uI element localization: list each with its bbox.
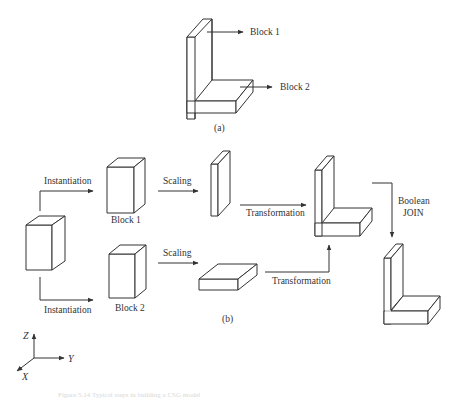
scaling-bottom-arrow: Scaling: [158, 248, 198, 263]
scaled-slab: [211, 151, 230, 216]
scaled-base: [199, 264, 257, 290]
figure-caption: Figure 5.14 Typical steps in building a …: [58, 391, 200, 399]
instantiation-bottom-arrow: Instantiation: [40, 277, 93, 315]
final-l-shape: [384, 244, 440, 324]
transformation-bottom-label: Transformation: [272, 276, 331, 286]
csg-diagram: Block 1 Block 2 (a) Instantiation Instan…: [0, 0, 462, 399]
part-b-label: (b): [222, 314, 233, 325]
block-2-box: Block 2: [109, 245, 146, 313]
instantiation-top-arrow: Instantiation: [40, 176, 93, 211]
scaling-top-arrow: Scaling: [158, 176, 198, 191]
transformation-top-label: Transformation: [246, 208, 305, 218]
axis-triad: Z Y X: [17, 330, 75, 382]
boolean-join-arrow: Boolean JOIN: [372, 183, 430, 237]
scaling-bottom-label: Scaling: [163, 248, 192, 258]
scaling-top-label: Scaling: [163, 176, 192, 186]
callout-block-1-label: Block 1: [250, 27, 280, 37]
block-1-box: Block 1: [107, 158, 145, 225]
part-a-l-shape: [187, 19, 253, 119]
callout-block-2-label: Block 2: [280, 82, 310, 92]
boolean-join-label-line2: JOIN: [403, 208, 424, 218]
axis-y-label: Y: [68, 353, 75, 364]
block-2-label: Block 2: [115, 303, 145, 313]
transformation-top-arrow: Transformation: [240, 205, 306, 218]
part-a-label: (a): [214, 123, 225, 134]
axis-z-label: Z: [23, 330, 29, 341]
transformation-bottom-arrow: Transformation: [265, 245, 331, 286]
instantiation-top-label: Instantiation: [44, 176, 92, 186]
instantiation-bottom-label: Instantiation: [44, 305, 92, 315]
assembled-l-shape: [315, 156, 372, 236]
primitive-box: [26, 216, 65, 270]
boolean-join-label-line1: Boolean: [398, 196, 430, 206]
callout-block-1: Block 1: [207, 27, 280, 37]
block-1-label: Block 1: [111, 215, 141, 225]
axis-x-label: X: [21, 371, 29, 382]
